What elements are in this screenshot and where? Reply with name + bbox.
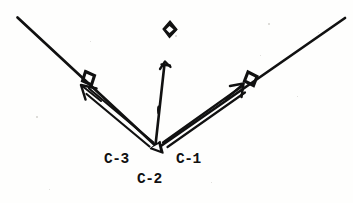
left-outline-arrow <box>81 85 154 147</box>
left-square-marker <box>83 72 95 86</box>
scan-speckle <box>36 116 38 118</box>
label-c1: C-1 <box>176 152 201 167</box>
scan-speckle <box>268 23 270 25</box>
label-c2: C-2 <box>137 172 162 187</box>
diagram-svg <box>0 0 353 203</box>
center-arrow <box>156 62 171 146</box>
right-square-marker <box>245 72 258 86</box>
label-c3: C-3 <box>104 152 129 167</box>
scan-speckle <box>175 35 177 37</box>
figure-canvas: C-3 C-1 C-2 <box>0 0 353 203</box>
